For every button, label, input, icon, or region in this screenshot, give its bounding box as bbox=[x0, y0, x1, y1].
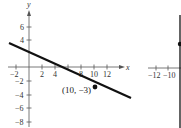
y-tick-label: 4 bbox=[20, 36, 24, 45]
y-axis-arrow-icon bbox=[27, 10, 31, 16]
y-tick-label: −2 bbox=[15, 77, 24, 86]
graph-2: −12 −10 bbox=[148, 15, 181, 128]
y-tick-label: −4 bbox=[15, 91, 24, 100]
point-label: (10, −3) bbox=[62, 85, 91, 95]
chart-canvas: x y −2 2 4 8 10 12 6 4 bbox=[0, 0, 181, 128]
y-axis-label: y bbox=[26, 0, 31, 9]
x-tick-label: 4 bbox=[53, 70, 57, 79]
x-tick-label: 2 bbox=[40, 70, 44, 79]
x-axis-arrow-icon bbox=[119, 65, 125, 69]
x-tick-label: −12 bbox=[148, 71, 161, 80]
x-tick-label: 10 bbox=[90, 70, 98, 79]
point-marker bbox=[178, 42, 181, 46]
x-axis-label: x bbox=[125, 63, 130, 72]
y-tick-label: −8 bbox=[15, 118, 24, 127]
y-tick-label: −6 bbox=[15, 104, 24, 113]
point-marker bbox=[93, 85, 98, 90]
y-tick-label: 6 bbox=[20, 23, 24, 32]
x-tick-label: 12 bbox=[103, 70, 111, 79]
graph-1: x y −2 2 4 8 10 12 6 4 bbox=[8, 0, 131, 127]
x-tick-label: −10 bbox=[163, 71, 176, 80]
